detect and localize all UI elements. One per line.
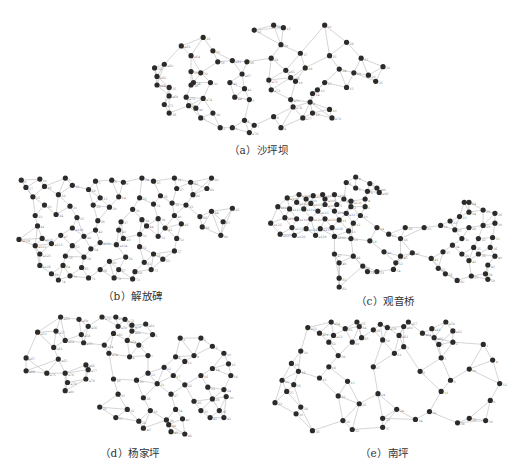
node-s20 <box>422 225 427 230</box>
node-label: 35 <box>204 410 208 414</box>
node-label: 2 <box>183 338 185 342</box>
node-label: a111 <box>354 201 362 205</box>
node-50 <box>137 232 142 237</box>
node-67 <box>116 267 121 272</box>
node-label: 12 <box>167 367 171 371</box>
node-label: 62 <box>147 262 151 266</box>
node-29 <box>278 42 283 47</box>
node-19 <box>293 79 298 84</box>
node-label: 11 <box>188 361 192 365</box>
node-label: 9 <box>313 102 315 106</box>
node-label: a70 <box>294 99 300 103</box>
node-64 <box>60 263 65 268</box>
node-52 <box>174 236 179 241</box>
node-40 <box>193 106 198 111</box>
node-12b <box>310 110 315 115</box>
node-54 <box>88 246 93 251</box>
node-label: a80 <box>68 390 74 394</box>
node-label: a70 <box>105 317 111 321</box>
node-a78 <box>65 380 70 385</box>
node-39 <box>210 110 215 115</box>
node-label: 33 <box>496 237 500 241</box>
node-27 <box>174 186 179 191</box>
node-label: 10 <box>472 369 476 373</box>
node-s25 <box>481 207 486 212</box>
node-label: 24 <box>227 389 231 393</box>
node-a102 <box>294 200 299 205</box>
node-label: a75 <box>167 104 173 108</box>
node-label: 33 <box>189 205 193 209</box>
node-5 <box>93 179 98 184</box>
node-14 <box>116 194 121 199</box>
node-23 <box>33 213 38 218</box>
node-73 <box>130 276 135 281</box>
edge <box>33 197 35 216</box>
node-label: 53 <box>75 245 79 249</box>
node-9 <box>308 99 313 104</box>
node-66 <box>371 327 376 332</box>
node-61 <box>123 255 128 260</box>
node-s36 <box>488 245 493 250</box>
node-33 <box>148 408 153 413</box>
edges <box>275 322 500 431</box>
node-a72 <box>122 317 127 322</box>
node-label: 21 <box>444 225 448 229</box>
node-label: 32 <box>175 203 179 207</box>
node-label: a60 <box>117 333 123 337</box>
edge <box>143 411 150 429</box>
edge <box>493 360 500 384</box>
node-a63 <box>179 43 184 48</box>
node-s35 <box>471 245 476 250</box>
node-a80 <box>63 388 68 393</box>
node-8 <box>173 354 178 359</box>
node-s39 <box>476 251 481 256</box>
node-label: 51 <box>221 61 225 65</box>
node-label: 5 <box>99 181 101 185</box>
node-28 <box>344 40 349 45</box>
node-s9 <box>365 189 370 194</box>
node-label: 22 <box>143 197 147 201</box>
node-label: 31 <box>194 71 198 75</box>
node-label: a115 <box>321 211 329 215</box>
edge <box>373 353 394 366</box>
node-label: a52 <box>68 340 74 344</box>
node-label: a53 <box>41 332 47 336</box>
node-label: 2 <box>354 206 356 210</box>
node-51 <box>215 59 220 64</box>
node-label: 16 <box>47 186 51 190</box>
node-label: 45 <box>168 228 172 232</box>
node-label: 31 <box>465 238 469 242</box>
node-label: a64 <box>194 55 200 59</box>
node-label: 52 <box>277 25 281 29</box>
node-36 <box>95 218 100 223</box>
node-s52 <box>393 260 398 265</box>
node-label: 6 <box>115 180 117 184</box>
edge <box>330 42 347 55</box>
node-17 <box>371 364 376 369</box>
node-label: 66 <box>103 269 107 273</box>
node-a53 <box>35 330 40 335</box>
node-label: 40 <box>186 418 190 422</box>
node-label: a78 <box>71 382 77 386</box>
node-s47 <box>332 251 337 256</box>
node-14 <box>310 91 315 96</box>
node-32 <box>125 407 130 412</box>
node-label: 25 <box>362 403 366 407</box>
node-label: 16 <box>206 37 210 41</box>
node-a60 <box>162 62 167 67</box>
node-s19 <box>403 225 408 230</box>
node-17 <box>23 185 28 190</box>
node-label: 39 <box>489 420 493 424</box>
node-s40 <box>492 254 497 259</box>
node-7 <box>436 342 441 347</box>
node-87 <box>221 219 226 224</box>
node-16 <box>198 373 203 378</box>
node-17 <box>171 373 176 378</box>
node-a61 <box>230 58 235 63</box>
node-33 <box>380 416 385 421</box>
node-label: 71 <box>92 277 96 281</box>
node-label: a63 <box>64 317 70 321</box>
node-label: a74 <box>112 353 118 357</box>
node-46 <box>179 221 184 226</box>
edge <box>212 353 224 368</box>
